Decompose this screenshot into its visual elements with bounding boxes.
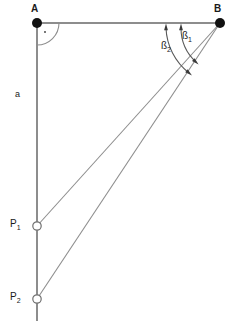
angle-label-beta1-subscript: 1 [188,36,192,43]
point-label-p1: P1 [10,219,21,231]
point-label-p1-subscript: 1 [17,224,21,231]
point-label-p2: P2 [10,292,21,304]
point-marker-p1[interactable] [33,222,41,230]
vertex-marker-b[interactable] [215,18,225,28]
point-label-p2-base: P [10,291,17,302]
segment-sightline-b-p1 [37,23,220,226]
vertex-label-b: B [214,4,221,14]
diagram-canvas [0,0,238,329]
point-label-p1-base: P [10,218,17,229]
angle-label-beta2-subscript: 2 [167,46,171,53]
geometry-diagram: A B a P1 P2 ß1 ß2 [0,0,238,329]
angle-label-beta2: ß2 [161,41,171,53]
point-label-p2-subscript: 2 [17,297,21,304]
point-marker-p2[interactable] [33,295,41,303]
segment-sightline-b-p2 [37,23,220,299]
vertex-marker-a[interactable] [32,18,42,28]
segments-group [37,23,220,321]
vertex-label-a: A [31,4,38,14]
side-label-a: a [15,90,20,99]
right-angle-dot-icon [44,31,46,33]
angle-label-beta1: ß1 [182,31,192,43]
angle-arc-beta2-arrowhead-start [164,24,168,31]
